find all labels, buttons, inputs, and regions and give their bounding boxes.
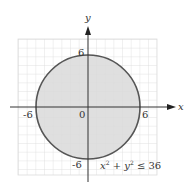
inequality-label: x2 + y2 ≤ 36	[100, 160, 161, 171]
origin-label: 0	[79, 110, 85, 120]
tick-x-6: 6	[142, 110, 148, 120]
tick-y-6: 6	[78, 48, 84, 58]
coordinate-plane	[0, 0, 190, 191]
y-axis-label: y	[85, 13, 91, 23]
tick-x-neg-6: -6	[23, 110, 33, 120]
y-axis-arrow-icon	[85, 26, 91, 35]
x-axis-arrow-icon	[167, 104, 176, 110]
x-axis-label: x	[178, 102, 184, 112]
tick-y-neg-6: -6	[72, 160, 82, 170]
